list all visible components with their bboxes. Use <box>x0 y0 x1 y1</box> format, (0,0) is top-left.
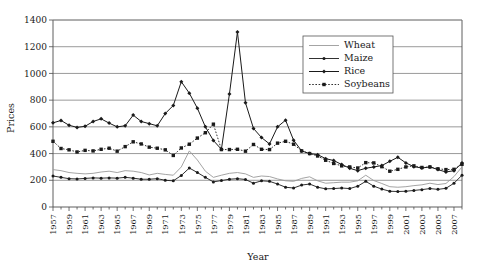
data-point-marker <box>99 148 102 151</box>
data-point-marker <box>212 122 215 125</box>
data-point-marker <box>268 180 271 183</box>
y-tick-label: 600 <box>30 122 47 132</box>
data-point-marker <box>348 165 351 168</box>
x-tick-label: 1957 <box>48 214 58 235</box>
data-point-marker <box>452 182 455 185</box>
y-axis-title: Prices <box>5 103 16 133</box>
data-point-marker <box>116 177 119 180</box>
data-point-marker <box>292 187 295 190</box>
x-tick-label: 2007 <box>449 214 459 235</box>
data-point-marker <box>420 188 423 191</box>
data-point-marker <box>172 154 175 157</box>
data-point-marker <box>324 159 327 162</box>
data-point-marker <box>60 176 63 179</box>
data-point-marker <box>244 178 247 181</box>
data-point-marker <box>340 164 343 167</box>
x-tick-label: 1961 <box>80 214 90 235</box>
y-tick-label: 1400 <box>24 15 47 25</box>
data-point-marker <box>164 179 167 182</box>
y-tick-label: 400 <box>30 149 47 159</box>
data-point-marker <box>99 117 103 121</box>
data-point-marker <box>180 174 183 177</box>
data-point-marker <box>148 178 151 181</box>
x-axis-title: Year <box>246 251 269 262</box>
data-point-marker <box>300 184 303 187</box>
x-tick-label: 1979 <box>225 214 235 235</box>
data-point-marker <box>428 165 431 168</box>
axes-lines-group <box>53 20 462 207</box>
x-tick-label: 1963 <box>96 214 106 235</box>
data-point-marker <box>172 179 175 182</box>
prices-line-chart: 0200400600800100012001400 19571959196119… <box>0 0 479 272</box>
x-tick-label: 2001 <box>401 214 411 235</box>
data-point-marker <box>195 106 199 110</box>
x-tick-marks-group <box>53 207 462 211</box>
data-point-marker <box>444 168 447 171</box>
data-point-marker <box>322 83 325 86</box>
series-soybeans <box>51 122 463 172</box>
data-point-marker <box>100 177 103 180</box>
data-point-marker <box>124 176 127 179</box>
data-point-marker <box>348 187 351 190</box>
data-point-marker <box>372 185 375 188</box>
data-point-marker <box>372 165 376 169</box>
data-point-marker <box>108 176 111 179</box>
data-point-marker <box>107 147 110 150</box>
y-tick-label: 200 <box>30 175 47 185</box>
series-line-soybeans <box>53 124 462 171</box>
data-point-marker <box>340 187 343 190</box>
x-tick-labels-group: 1957195919611963196519671969197119731975… <box>48 214 459 235</box>
data-point-marker <box>164 148 167 151</box>
data-point-marker <box>244 149 247 152</box>
y-tick-label: 1000 <box>24 69 47 79</box>
x-tick-label: 1999 <box>385 214 395 235</box>
data-point-marker <box>461 174 464 177</box>
data-point-marker <box>115 149 118 152</box>
series-maize <box>52 166 464 193</box>
gridlines-group <box>53 20 462 180</box>
data-point-marker <box>388 159 392 163</box>
data-point-marker <box>404 165 407 168</box>
data-point-marker <box>156 177 159 180</box>
data-point-marker <box>212 180 215 183</box>
data-point-marker <box>51 140 54 143</box>
data-point-marker <box>300 149 303 152</box>
x-tick-label: 1989 <box>305 214 315 235</box>
data-point-marker <box>132 177 135 180</box>
x-tick-label: 1993 <box>337 214 347 235</box>
data-point-marker <box>316 186 319 189</box>
data-point-marker <box>75 125 79 129</box>
data-point-marker <box>131 140 134 143</box>
data-point-marker <box>356 166 359 169</box>
y-tick-label: 0 <box>41 202 47 212</box>
data-point-marker <box>220 179 223 182</box>
data-point-marker <box>380 188 383 191</box>
data-point-marker <box>83 149 86 152</box>
data-point-marker <box>276 183 279 186</box>
data-point-marker <box>436 167 439 170</box>
x-tick-label: 1985 <box>273 214 283 235</box>
legend-label-maize: Maize <box>344 52 373 63</box>
data-point-marker <box>228 178 231 181</box>
data-point-marker <box>204 176 207 179</box>
x-tick-label: 2005 <box>433 214 443 235</box>
x-tick-label: 1975 <box>193 214 203 235</box>
data-point-marker <box>436 188 439 191</box>
data-point-marker <box>52 175 55 178</box>
data-point-marker <box>460 163 463 166</box>
data-point-marker <box>412 164 415 167</box>
data-point-marker <box>364 161 367 164</box>
data-point-marker <box>268 148 271 151</box>
data-point-marker <box>75 150 78 153</box>
data-point-marker <box>396 190 399 193</box>
data-point-marker <box>180 146 183 149</box>
x-tick-label: 1983 <box>257 214 267 235</box>
x-tick-label: 1973 <box>177 214 187 235</box>
data-point-marker <box>91 149 94 152</box>
chart-figure: 0200400600800100012001400 19571959196119… <box>0 0 479 272</box>
data-point-marker <box>323 57 326 60</box>
data-point-marker <box>196 171 199 174</box>
legend-label-rice: Rice <box>344 65 366 76</box>
data-point-marker <box>84 177 87 180</box>
data-point-marker <box>388 170 391 173</box>
